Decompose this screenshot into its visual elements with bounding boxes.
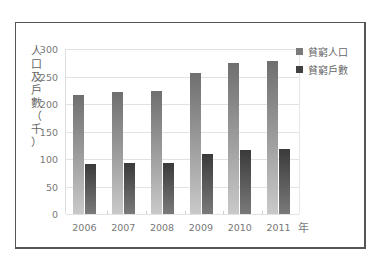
gridline bbox=[66, 49, 299, 50]
legend-item: 貧窮人口 bbox=[296, 43, 348, 59]
bar-poor-population bbox=[112, 92, 123, 214]
x-tick-mark bbox=[146, 211, 147, 214]
legend-label: 貧窮人口 bbox=[308, 44, 348, 59]
legend: 貧窮人口貧窮戶數 bbox=[296, 43, 348, 79]
x-tick-label: 2008 bbox=[142, 222, 182, 233]
legend-label: 貧窮戶數 bbox=[308, 62, 348, 77]
x-tick-mark bbox=[223, 211, 224, 214]
bar-poor-population bbox=[151, 91, 162, 214]
y-axis-label-char: （ bbox=[29, 110, 43, 123]
gridline bbox=[66, 159, 299, 160]
plot-area bbox=[65, 49, 300, 214]
x-tick-label: 2009 bbox=[181, 222, 221, 233]
y-tick-label: 200 bbox=[36, 99, 58, 110]
legend-swatch-icon bbox=[296, 48, 303, 55]
bar-poor-households bbox=[240, 150, 251, 214]
y-axis-label-char: ） bbox=[29, 136, 43, 149]
gridline bbox=[66, 214, 299, 215]
bar-poor-households bbox=[85, 164, 96, 214]
x-tick-label: 2007 bbox=[103, 222, 143, 233]
y-tick-label: 300 bbox=[36, 44, 58, 55]
bar-poor-households bbox=[279, 149, 290, 214]
gridline bbox=[66, 132, 299, 133]
x-axis-label: 年 bbox=[298, 219, 309, 235]
bar-poor-population bbox=[73, 95, 84, 214]
x-tick-mark bbox=[107, 211, 108, 214]
gridline bbox=[66, 187, 299, 188]
y-tick-label: 250 bbox=[36, 71, 58, 82]
legend-item: 貧窮戶數 bbox=[296, 61, 348, 77]
x-tick-label: 2011 bbox=[259, 222, 299, 233]
legend-swatch-icon bbox=[296, 66, 303, 73]
bar-poor-households bbox=[163, 163, 174, 214]
x-tick-mark bbox=[185, 211, 186, 214]
x-tick-label: 2006 bbox=[64, 222, 104, 233]
bar-poor-population bbox=[190, 73, 201, 214]
gridline bbox=[66, 104, 299, 105]
bar-poor-households bbox=[124, 163, 135, 214]
y-tick-label: 150 bbox=[36, 126, 58, 137]
x-tick-label: 2010 bbox=[220, 222, 260, 233]
y-tick-label: 100 bbox=[36, 154, 58, 165]
y-tick-label: 0 bbox=[36, 209, 58, 220]
x-tick-mark bbox=[262, 211, 263, 214]
bar-poor-households bbox=[202, 154, 213, 214]
y-axis-label-char: 戶 bbox=[29, 84, 43, 97]
bar-poor-population bbox=[267, 61, 278, 214]
gridline bbox=[66, 77, 299, 78]
y-axis-label-char: 口 bbox=[29, 58, 43, 71]
bar-poor-population bbox=[228, 63, 239, 214]
y-tick-label: 50 bbox=[36, 181, 58, 192]
